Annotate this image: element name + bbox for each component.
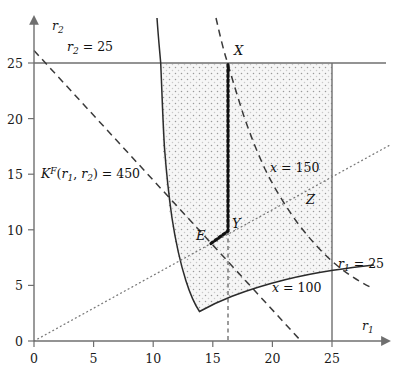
- x-tick-label-25: 25: [324, 351, 340, 366]
- x-axis-ticks: 0 5 10 15 20 25: [30, 341, 340, 366]
- x-tick-label-15: 15: [205, 351, 221, 366]
- x-tick-label-5: 5: [90, 351, 98, 366]
- y-tick-label-25: 25: [7, 56, 23, 71]
- x-tick-label-10: 10: [145, 351, 161, 366]
- x-axis-label: r1: [362, 318, 374, 335]
- r1-constraint-label: r1 = 25: [338, 256, 384, 273]
- r2-constraint-label: r2 = 25: [67, 39, 113, 56]
- y-tick-label-20: 20: [7, 112, 23, 127]
- x-tick-label-0: 0: [30, 351, 38, 366]
- point-label-Y: Y: [232, 216, 242, 231]
- y-tick-label-10: 10: [7, 223, 23, 238]
- point-label-Z: Z: [305, 192, 316, 207]
- feasible-region: [160, 63, 332, 312]
- y-tick-label-0: 0: [15, 334, 23, 349]
- y-tick-label-5: 5: [15, 278, 23, 293]
- y-axis-label: r2: [52, 18, 64, 35]
- isocost-label: KF(r1, r2) = 450: [40, 166, 140, 183]
- point-label-X: X: [233, 43, 244, 58]
- x-tick-label-20: 20: [264, 351, 280, 366]
- isoquant-x150-label: x = 150: [270, 160, 319, 175]
- isoquant-x100-label: x = 100: [272, 280, 321, 295]
- y-axis-ticks: 0 5 10 15 20 25: [7, 56, 34, 349]
- y-tick-label-15: 15: [7, 167, 23, 182]
- point-label-E: E: [195, 228, 206, 243]
- isoquant-figure: 0 5 10 15 20 25 0 5 10 15 20 25 r2 r1 r2…: [0, 0, 399, 380]
